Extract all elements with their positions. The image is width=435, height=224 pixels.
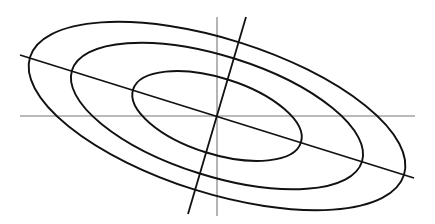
ellipse-diagram [0,0,435,224]
